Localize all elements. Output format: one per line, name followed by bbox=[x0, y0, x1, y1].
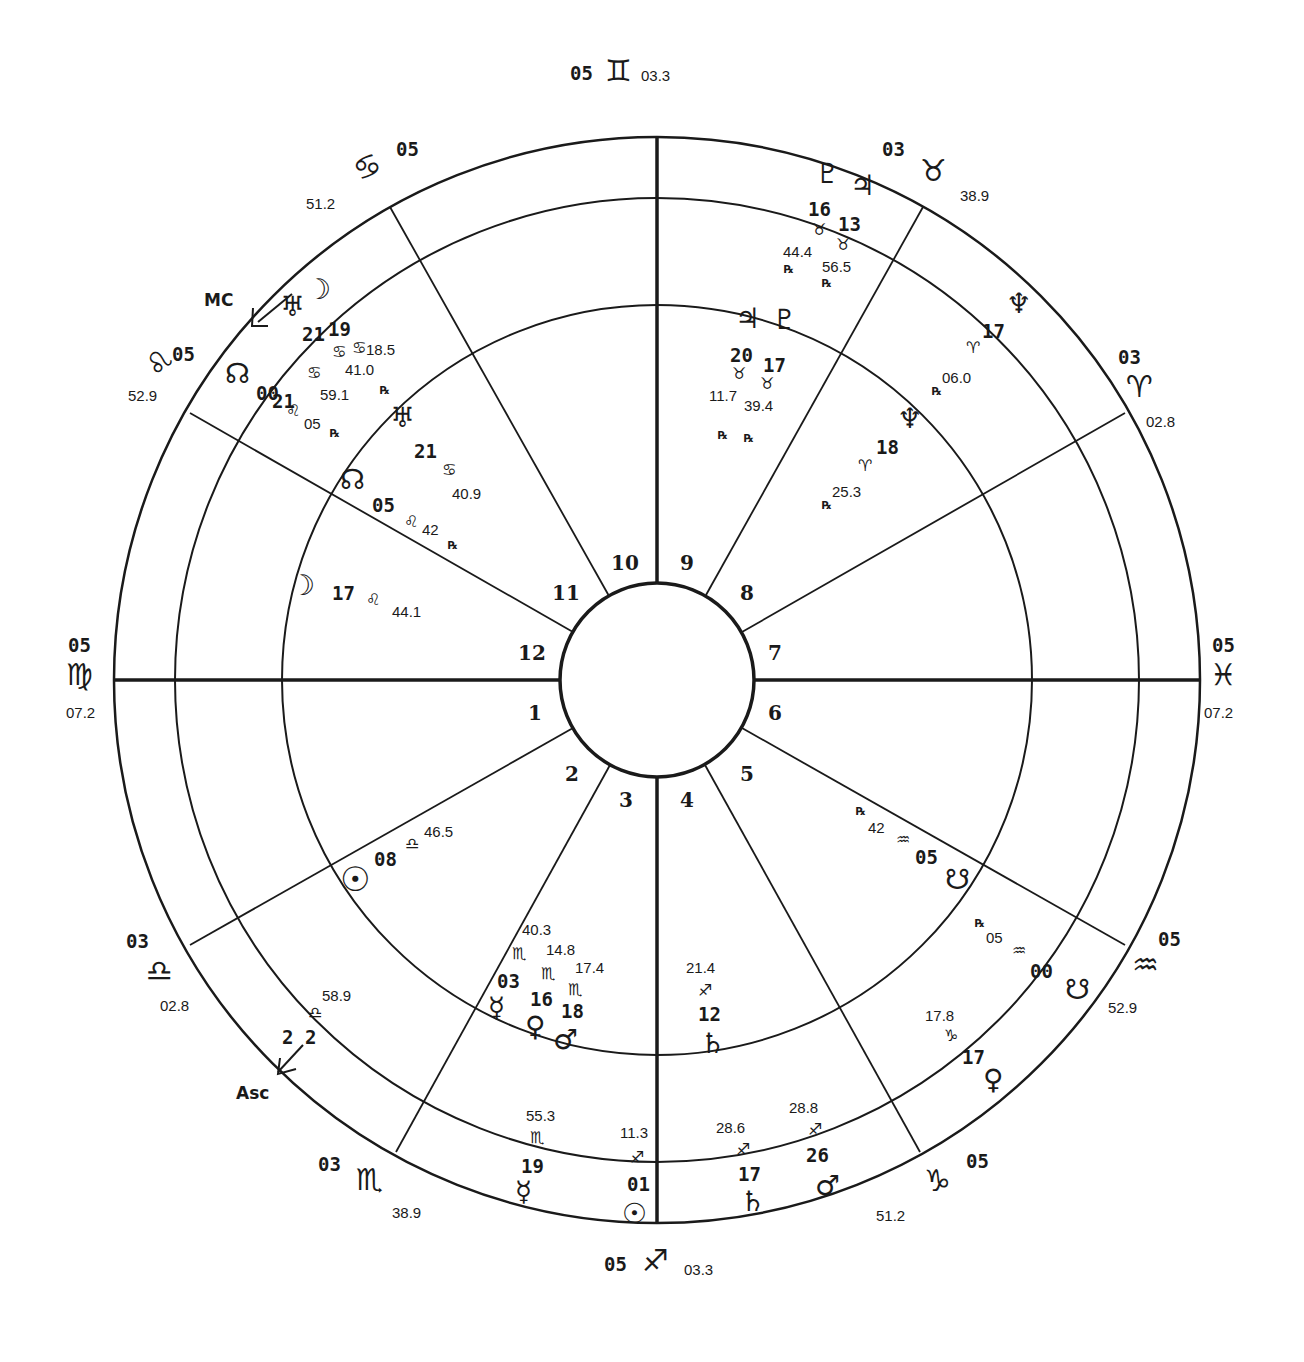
outer-north-node-sign-icon: ♌ bbox=[286, 403, 300, 419]
outer-neptune-sign-icon: ♈ bbox=[966, 340, 980, 356]
outer-north-node-minutes: 05 bbox=[304, 416, 321, 431]
inner-neptune-minutes: 25.3 bbox=[832, 484, 861, 499]
cusp-line-8 bbox=[742, 413, 1125, 632]
house-number-3: 3 bbox=[619, 790, 633, 810]
outer-jupiter-degree: 13 bbox=[838, 215, 861, 234]
outer-saturn-minutes: 28.6 bbox=[716, 1120, 745, 1135]
outer-saturn-degree: 17 bbox=[738, 1165, 761, 1184]
inner-saturn-sign-icon: ♐ bbox=[698, 983, 712, 999]
inner-moon-degree: 17 bbox=[332, 584, 355, 603]
inner-neptune-retrograde: ℞ bbox=[822, 500, 832, 511]
inner-neptune-icon: ♆ bbox=[897, 405, 922, 433]
inner-jupiter-degree: 20 bbox=[730, 346, 753, 365]
scorpio-icon: ♏ bbox=[356, 1165, 383, 1195]
aries-icon: ♈ bbox=[1126, 372, 1153, 402]
mc-label: MC bbox=[204, 292, 233, 309]
house-number-1: 1 bbox=[528, 703, 542, 723]
outer-jupiter-icon: ♃ bbox=[850, 172, 875, 200]
outer-sun-sign-icon: ♐ bbox=[630, 1150, 644, 1166]
cusp-3-minutes: 38.9 bbox=[392, 1205, 421, 1220]
outer-neptune-minutes: 06.0 bbox=[942, 370, 971, 385]
house-number-6: 6 bbox=[768, 703, 782, 723]
cusp-5-degree: 05 bbox=[966, 1152, 989, 1171]
outer-venus-minutes: 17.8 bbox=[925, 1008, 954, 1023]
asc-degree: 2 2 bbox=[282, 1028, 316, 1047]
cusp-line-2 bbox=[190, 728, 573, 945]
inner-venus-sign-icon: ♏ bbox=[541, 966, 555, 982]
cusp-12-minutes: 52.9 bbox=[128, 388, 157, 403]
inner-venus-icon: ♀ bbox=[525, 1013, 546, 1041]
outer-uranus-retrograde: ℞ bbox=[380, 385, 390, 396]
cusp-3-degree: 03 bbox=[318, 1155, 341, 1174]
outer-venus-degree: 17 bbox=[962, 1048, 985, 1067]
inner-north-node-icon: ☊ bbox=[340, 466, 365, 494]
inner-pluto-minutes: 39.4 bbox=[744, 398, 773, 413]
center-circle bbox=[560, 583, 754, 777]
outer-jupiter-sign-icon: ♉ bbox=[836, 237, 850, 253]
cusp-10-minutes: 03.3 bbox=[641, 68, 670, 83]
outer-south-node-degree: 00 bbox=[1030, 962, 1053, 981]
outer-pluto-retrograde: ℞ bbox=[784, 264, 794, 275]
house-number-8: 8 bbox=[740, 583, 754, 603]
virgo-icon: ♍ bbox=[66, 660, 93, 690]
cusp-4-degree: 05 bbox=[604, 1255, 627, 1274]
gemini-icon: ♊ bbox=[605, 56, 632, 86]
inner-venus-degree: 16 bbox=[530, 990, 553, 1009]
inner-north-node-degree: 05 bbox=[372, 496, 395, 515]
inner-pluto-degree: 17 bbox=[763, 356, 786, 375]
inner-south-node-minutes: 42 bbox=[868, 820, 885, 835]
inner-venus-minutes: 14.8 bbox=[546, 942, 575, 957]
outer-mercury-icon: ☿ bbox=[515, 1178, 532, 1206]
outer-sun-icon: ☉ bbox=[622, 1200, 647, 1228]
outer-uranus-icon: ♅ bbox=[280, 293, 305, 321]
outer-mars-icon: ♂ bbox=[815, 1172, 840, 1200]
inner-sun-icon: ☉ bbox=[340, 862, 370, 896]
inner-uranus-minutes: 40.9 bbox=[452, 486, 481, 501]
outer-jupiter-minutes: 56.5 bbox=[822, 259, 851, 274]
inner-neptune-degree: 18 bbox=[876, 438, 899, 457]
asc-label: Asc bbox=[236, 1085, 269, 1102]
inner-pluto-retrograde: ℞ bbox=[744, 433, 754, 444]
cusp-5-minutes: 51.2 bbox=[876, 1208, 905, 1223]
outer-mercury-sign-icon: ♏ bbox=[530, 1130, 544, 1146]
outer-pluto-sign-icon: ♉ bbox=[812, 222, 826, 238]
outer-north-node-icon: ☊ bbox=[225, 360, 250, 388]
aquarius-icon: ♒ bbox=[1132, 950, 1159, 980]
sagittarius-icon: ♐ bbox=[642, 1246, 669, 1276]
inner-uranus-sign-icon: ♋ bbox=[442, 462, 456, 478]
inner-south-node-degree: 05 bbox=[915, 848, 938, 867]
house-number-12: 12 bbox=[518, 643, 546, 663]
outer-moon-icon: ☽ bbox=[306, 276, 331, 304]
cusp-line-5 bbox=[705, 765, 920, 1152]
inner-mars-minutes: 17.4 bbox=[575, 960, 604, 975]
pisces-icon: ♓ bbox=[1210, 660, 1237, 690]
inner-pluto-icon: ♇ bbox=[772, 306, 797, 334]
cusp-1-degree: 05 bbox=[68, 636, 91, 655]
outer-venus-icon: ♀ bbox=[983, 1066, 1004, 1094]
asc-minutes: 58.9 bbox=[322, 988, 351, 1003]
inner-saturn-minutes: 21.4 bbox=[686, 960, 715, 975]
outer-sun-minutes: 11.3 bbox=[620, 1125, 648, 1140]
cusp-7-degree: 05 bbox=[1212, 636, 1235, 655]
cusp-1-minutes: 07.2 bbox=[66, 705, 95, 720]
outer-mars-minutes: 28.8 bbox=[789, 1100, 818, 1115]
cusp-11-minutes: 51.2 bbox=[306, 196, 335, 211]
cusp-9-degree: 03 bbox=[882, 140, 905, 159]
outer-venus-sign-icon: ♑ bbox=[944, 1028, 958, 1044]
outer-moon-minutes: 18.5 bbox=[366, 342, 395, 357]
house-number-11: 11 bbox=[552, 583, 580, 603]
outer-pluto-minutes: 44.4 bbox=[783, 244, 812, 259]
mc-minutes: 59.1 bbox=[320, 387, 349, 402]
inner-south-node-sign-icon: ♒ bbox=[896, 832, 910, 848]
inner-neptune-sign-icon: ♈ bbox=[858, 458, 872, 474]
outer-neptune-icon: ♆ bbox=[1006, 290, 1031, 318]
inner-jupiter-minutes: 11.7 bbox=[709, 388, 737, 403]
cusp-6-minutes: 52.9 bbox=[1108, 1000, 1137, 1015]
chart-wheel bbox=[0, 0, 1304, 1362]
inner-mars-sign-icon: ♏ bbox=[568, 982, 582, 998]
inner-sun-minutes: 46.5 bbox=[424, 824, 453, 839]
inner-north-node-retrograde: ℞ bbox=[448, 540, 458, 551]
cusp-2-degree: 03 bbox=[126, 932, 149, 951]
outer-saturn-icon: ♄ bbox=[740, 1188, 765, 1216]
cusp-4-minutes: 03.3 bbox=[684, 1262, 713, 1277]
